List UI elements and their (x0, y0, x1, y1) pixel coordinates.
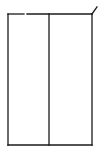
corner-tick (92, 7, 97, 14)
two-panel-diagram (0, 0, 99, 153)
